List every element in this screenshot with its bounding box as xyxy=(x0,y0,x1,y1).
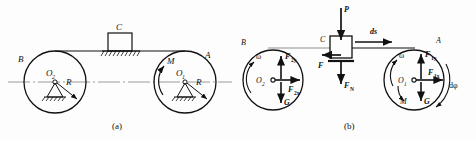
pulley-left-center-sub: 2 xyxy=(52,74,55,80)
normal-fn-label: F xyxy=(343,81,350,90)
weight-g-label-left: G xyxy=(284,98,290,107)
pulley-left-b-edge-label: B xyxy=(241,38,246,47)
block-c-a xyxy=(108,33,132,51)
angle-dphi-label: dφ xyxy=(449,81,458,90)
omega-label-right-b: ω xyxy=(399,51,404,60)
pin-support-left xyxy=(47,83,63,97)
moment-arc-a xyxy=(159,66,164,95)
force-f2x-sub: 2x xyxy=(294,90,300,96)
friction-f-label: F xyxy=(317,61,324,70)
displacement-ds-label: ds xyxy=(370,27,377,36)
technical-diagram: R O 2 B R O 1 A M C xyxy=(0,0,476,141)
pulley-right-b-hub xyxy=(412,78,416,82)
omega-label-left-b: ω xyxy=(256,52,261,61)
caption-b: (b) xyxy=(344,121,355,131)
caption-a: (a) xyxy=(112,121,122,131)
ground-hatch-right xyxy=(172,97,195,101)
normal-fn-sub: N xyxy=(350,86,354,92)
block-c-label-a: C xyxy=(116,22,123,32)
radius-label-right: R xyxy=(195,77,202,87)
pulley-left-b-center-sub: 2 xyxy=(262,81,265,87)
weight-g-label-right: G xyxy=(424,97,430,106)
force-f2y-label: F xyxy=(284,52,291,61)
block-c-label-b: C xyxy=(320,35,326,44)
pulley-left-b-hub xyxy=(271,78,275,82)
pulley-right-center-sub: 1 xyxy=(182,74,185,80)
ground-hatch-left xyxy=(42,97,65,101)
pulley-left-edge-label: B xyxy=(18,54,24,64)
pulley-right-b-edge-label: A xyxy=(435,36,441,45)
pulley-right-b-center-sub: 1 xyxy=(404,81,407,87)
diagram-a: R O 2 B R O 1 A M C xyxy=(8,22,232,131)
moment-label-b: M xyxy=(399,97,408,106)
force-f2x-label: F xyxy=(287,85,294,94)
force-f2y-sub: 2y xyxy=(291,57,297,63)
omega-arc-right-b xyxy=(390,60,397,86)
diagram-b: B ω F 2y F 2x G O 2 C P F F N ds xyxy=(241,5,458,131)
block-ground-hatch xyxy=(101,51,140,56)
moment-label-a: M xyxy=(166,56,175,66)
load-p-label: P xyxy=(344,5,349,14)
force-f1y-sub: 1y xyxy=(431,55,437,61)
pulley-right-edge-label: A xyxy=(204,50,211,60)
radius-label-left: R xyxy=(65,77,72,87)
omega-arc-left-b xyxy=(246,62,254,93)
force-f1y-label: F xyxy=(424,50,431,59)
force-f1x-label: F xyxy=(427,68,434,77)
pin-support-right xyxy=(177,83,193,97)
figure-canvas: R O 2 B R O 1 A M C xyxy=(0,0,476,141)
force-f1x-sub: 1x xyxy=(434,73,440,79)
